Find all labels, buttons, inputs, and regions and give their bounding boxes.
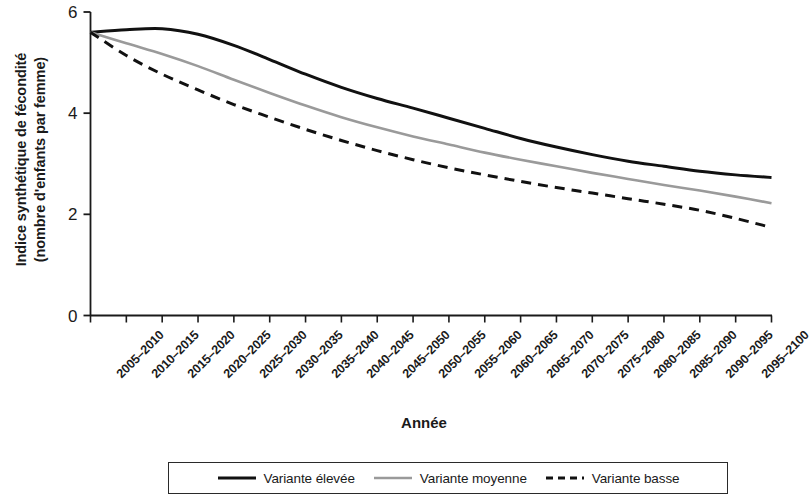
y-tick-label: 2	[68, 205, 77, 224]
y-tick-label: 4	[68, 104, 77, 123]
series-line	[91, 28, 772, 177]
legend-swatch	[373, 472, 413, 484]
legend-entry: Variante moyenne	[373, 471, 527, 486]
x-tick-marks	[91, 316, 772, 323]
chart-legend: Variante élevéeVariante moyenneVariante …	[168, 462, 728, 494]
axes	[91, 12, 773, 316]
legend-label: Variante élevée	[264, 471, 355, 486]
data-series	[91, 28, 772, 227]
x-axis-title-text: Année	[401, 414, 447, 431]
legend-entry: Variante élevée	[217, 471, 355, 486]
x-axis-title: Année	[0, 414, 812, 431]
fertility-projection-chart: Indice synthétique de fécondité (nombre …	[0, 0, 812, 500]
legend-entry: Variante basse	[545, 471, 680, 486]
series-line	[91, 32, 772, 203]
legend-swatch	[545, 472, 585, 484]
y-tick-marks	[84, 12, 91, 316]
y-tick-labels: 0246	[68, 3, 77, 326]
legend-swatch	[217, 472, 257, 484]
y-tick-label: 6	[68, 3, 77, 22]
legend-label: Variante moyenne	[420, 471, 527, 486]
y-tick-label: 0	[68, 307, 77, 326]
series-line	[91, 32, 772, 227]
legend-label: Variante basse	[592, 471, 680, 486]
